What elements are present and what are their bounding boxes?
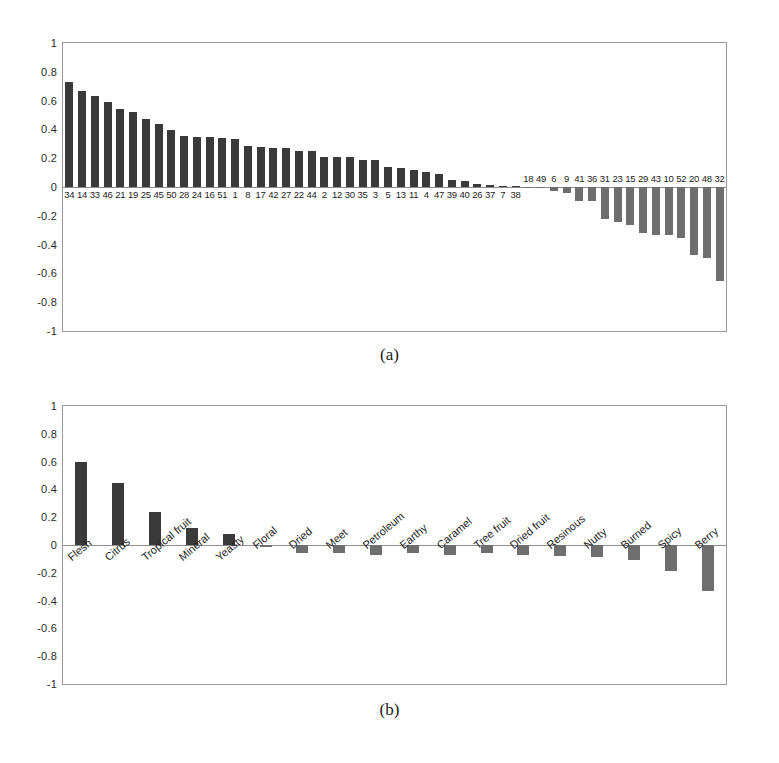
y-axis-tick-label: -0.8 — [37, 650, 57, 662]
y-axis-tick-label: 0.2 — [41, 511, 57, 523]
bar — [75, 462, 87, 545]
y-axis-tick-label: 0.8 — [41, 428, 57, 440]
plot-area-b: 10.80.60.40.20-0.2-0.4-0.6-0.8-1FleshCit… — [62, 405, 727, 685]
y-axis-tick-label: -1 — [47, 678, 57, 690]
y-axis-tick-label: -0.4 — [37, 595, 57, 607]
panel-b: 10.80.60.40.20-0.2-0.4-0.6-0.8-1FleshCit… — [0, 0, 779, 763]
y-axis-tick-label: -0.2 — [37, 567, 57, 579]
y-axis-tick-label: 1 — [51, 400, 57, 412]
caption-b: (b) — [0, 700, 779, 720]
bar — [702, 545, 714, 591]
bar — [665, 545, 677, 571]
y-axis-tick-label: 0.4 — [41, 483, 57, 495]
y-axis-tick-label: 0.6 — [41, 456, 57, 468]
y-axis-tick-label: -0.6 — [37, 622, 57, 634]
y-axis-tick-label: 0 — [51, 539, 57, 551]
